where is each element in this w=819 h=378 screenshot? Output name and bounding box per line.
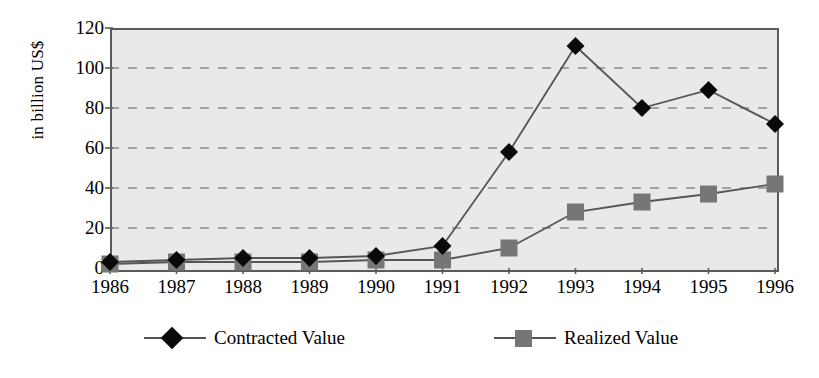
data-point-diamond	[500, 143, 518, 161]
legend-item-realized-value: Realized Value	[494, 325, 678, 351]
square-marker-icon	[494, 327, 556, 349]
y-axis-tick-label: 80	[58, 98, 104, 117]
legend-item-contracted-value: Contracted Value	[144, 325, 345, 351]
x-axis-tick-labels: 1986198719881989199019911992199319941995…	[0, 276, 819, 306]
x-axis-tick-label: 1993	[541, 276, 611, 298]
data-point-square	[767, 176, 784, 193]
y-axis-tick-label: 60	[58, 138, 104, 157]
chart-container: in billion US$ 020406080100120 198619871…	[0, 0, 819, 378]
x-axis-tick-label: 1991	[408, 276, 478, 298]
y-axis-tick-label: 40	[58, 178, 104, 197]
data-point-square	[700, 186, 717, 203]
plot-series-layer	[110, 28, 775, 268]
data-point-square	[567, 204, 584, 221]
x-axis-tick-label: 1992	[474, 276, 544, 298]
x-axis-tick-label: 1987	[142, 276, 212, 298]
legend-label-contracted-value: Contracted Value	[214, 327, 345, 349]
x-axis-tick-label: 1995	[674, 276, 744, 298]
data-point-square	[501, 240, 518, 257]
series-line	[110, 46, 775, 262]
y-axis-tick-label: 120	[58, 18, 104, 37]
x-axis-tick-label: 1996	[740, 276, 810, 298]
y-axis-tick-labels: 020406080100120	[52, 0, 104, 378]
data-point-diamond	[700, 81, 718, 99]
y-axis-tick-label: 0	[58, 258, 104, 277]
x-axis-tick-label: 1988	[208, 276, 278, 298]
x-axis-tick-label: 1986	[75, 276, 145, 298]
chart-legend: Contracted Value Realized Value	[0, 325, 819, 365]
legend-label-realized-value: Realized Value	[564, 327, 678, 349]
y-axis-tick-label: 20	[58, 218, 104, 237]
diamond-marker-icon	[144, 327, 206, 349]
x-axis-tick-label: 1994	[607, 276, 677, 298]
x-axis-tick-label: 1989	[275, 276, 345, 298]
x-axis-tick-label: 1990	[341, 276, 411, 298]
data-point-square	[634, 194, 651, 211]
y-axis-tick-label: 100	[58, 58, 104, 77]
y-axis-title: in billion US$	[28, 0, 48, 180]
data-point-diamond	[766, 115, 784, 133]
